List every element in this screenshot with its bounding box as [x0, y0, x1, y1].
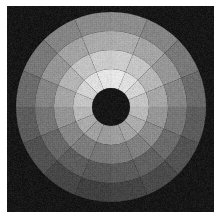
figure-root: Polar sector intensity map heatmap gray	[0, 0, 221, 219]
plot-area	[7, 6, 214, 212]
polar-sector-chart	[7, 6, 214, 212]
